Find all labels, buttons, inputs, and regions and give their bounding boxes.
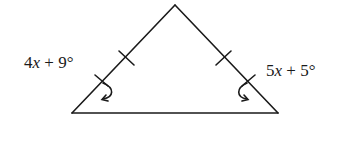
left-leg-tick bbox=[119, 51, 134, 65]
left-angle-coef: 4 bbox=[24, 53, 33, 72]
left-leg bbox=[72, 5, 175, 113]
right-angle-const: 5° bbox=[300, 61, 315, 80]
right-leg bbox=[175, 5, 278, 113]
left-angle-op: + bbox=[40, 53, 58, 72]
left-angle-const: 9° bbox=[58, 53, 73, 72]
right-angle-op: + bbox=[282, 61, 300, 80]
right-angle-coef: 5 bbox=[266, 61, 275, 80]
left-base-angle-label: 4x + 9° bbox=[24, 54, 73, 71]
left-angle-var: x bbox=[33, 53, 41, 72]
right-angle-var: x bbox=[275, 61, 283, 80]
right-leg-tick bbox=[216, 51, 231, 65]
right-base-angle-label: 5x + 5° bbox=[266, 62, 315, 79]
